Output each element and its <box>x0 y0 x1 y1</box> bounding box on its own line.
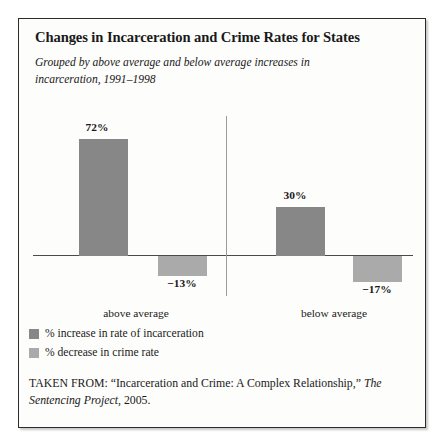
bar-value-below-average-crime: −17% <box>347 283 407 295</box>
bar-value-above-average-incarceration: 72% <box>67 121 127 133</box>
figure-title: Changes in Incarceration and Crime Rates… <box>35 29 413 47</box>
legend-swatch-icon-crime <box>29 348 39 358</box>
bar-below-average-crime <box>353 256 402 282</box>
source-suffix: , 2005. <box>118 393 150 407</box>
legend-item-incarceration: % increase in rate of incarceration <box>29 325 409 342</box>
legend-swatch-icon-incarceration <box>29 329 39 339</box>
bar-below-average-incarceration <box>276 207 325 256</box>
bar-above-average-incarceration <box>79 139 128 256</box>
bar-chart-plot-area: 72% −13% above average 30% −17% below av… <box>19 111 425 301</box>
source-citation: TAKEN FROM: “Incarceration and Crime: A … <box>29 375 415 409</box>
figure-container: Changes in Incarceration and Crime Rates… <box>18 18 426 428</box>
group-label-above-average: above average <box>81 307 191 319</box>
bar-above-average-crime <box>158 256 207 276</box>
legend-item-crime: % decrease in crime rate <box>29 344 409 361</box>
source-prefix: TAKEN FROM: “Incarceration and Crime: A … <box>29 376 361 390</box>
bar-value-above-average-crime: −13% <box>152 277 212 289</box>
group-divider-line <box>226 116 227 296</box>
legend-label-incarceration: % increase in rate of incarceration <box>45 327 204 340</box>
bar-value-below-average-incarceration: 30% <box>265 189 325 201</box>
group-label-below-average: below average <box>279 307 389 319</box>
legend-label-crime: % decrease in crime rate <box>45 346 159 359</box>
chart-legend: % increase in rate of incarceration % de… <box>29 325 409 363</box>
figure-subtitle: Grouped by above average and below avera… <box>35 55 365 89</box>
